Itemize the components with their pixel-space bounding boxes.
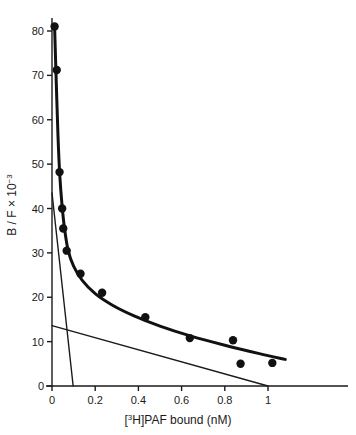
y-tick-label: 10 bbox=[32, 336, 44, 348]
x-tick-label: 0 bbox=[49, 394, 55, 406]
y-tick-label: 50 bbox=[32, 158, 44, 170]
axis-group bbox=[46, 18, 348, 386]
data-point bbox=[53, 66, 61, 74]
y-tick-label: 70 bbox=[32, 69, 44, 81]
data-points-group bbox=[50, 22, 276, 368]
data-point bbox=[186, 334, 194, 342]
biphasic-binding-curve bbox=[55, 27, 286, 360]
curves-group bbox=[52, 27, 285, 386]
x-tick-label: 0.4 bbox=[131, 394, 146, 406]
y-axis-title: B / F × 10−3 bbox=[5, 174, 20, 236]
data-point bbox=[55, 168, 63, 176]
low-affinity-component-line bbox=[52, 326, 268, 386]
y-tick-label: 0 bbox=[38, 380, 44, 392]
y-tick-label: 80 bbox=[32, 25, 44, 37]
data-point bbox=[62, 246, 70, 254]
scatchard-plot-figure: 00.20.40.60.8101020304050607080 [3H]PAF … bbox=[0, 0, 356, 435]
y-tick-label: 40 bbox=[32, 203, 44, 215]
y-tick-label: 30 bbox=[32, 247, 44, 259]
x-tick-label: 0.6 bbox=[174, 394, 189, 406]
data-point bbox=[50, 22, 58, 30]
chart-canvas: 00.20.40.60.8101020304050607080 [3H]PAF … bbox=[0, 0, 356, 435]
y-tick-label: 20 bbox=[32, 291, 44, 303]
data-point bbox=[76, 270, 84, 278]
y-tick-label: 60 bbox=[32, 114, 44, 126]
data-point bbox=[229, 336, 237, 344]
data-point bbox=[268, 359, 276, 367]
x-tick-label: 0.8 bbox=[217, 394, 232, 406]
x-tick-label: 0.2 bbox=[88, 394, 103, 406]
data-point bbox=[236, 360, 244, 368]
x-tick-label: 1 bbox=[265, 394, 271, 406]
x-axis-title: [3H]PAF bound (nM) bbox=[125, 413, 232, 428]
data-point bbox=[98, 289, 106, 297]
data-point bbox=[58, 204, 66, 212]
data-point bbox=[141, 313, 149, 321]
data-point bbox=[59, 224, 67, 232]
